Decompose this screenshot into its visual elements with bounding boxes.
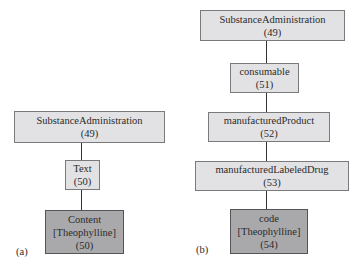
node-label: code (231, 212, 307, 225)
node-b-consumable: consumable (51) (230, 63, 299, 93)
node-b-code: code [Theophylline] (54) (230, 209, 308, 254)
node-label: SubstanceAdministration (201, 13, 344, 26)
node-label: Text (66, 162, 99, 175)
node-label: consumable (231, 65, 298, 78)
node-b-substance-administration: SubstanceAdministration (49) (200, 10, 345, 41)
panel-label-a: (a) (16, 246, 28, 257)
node-label: Content (46, 213, 123, 226)
edge-a-1 (81, 143, 82, 160)
node-b-manufactured-product: manufacturedProduct (52) (208, 112, 330, 142)
node-a-substance-administration: SubstanceAdministration (49) (14, 111, 165, 143)
node-a-text: Text (50) (65, 160, 100, 190)
node-label: SubstanceAdministration (15, 114, 164, 127)
panel-label-b: (b) (196, 244, 208, 255)
node-a-content: Content [Theophylline] (50) (45, 210, 124, 254)
node-value: [Theophylline] (46, 226, 123, 239)
node-id: (50) (46, 239, 123, 252)
node-label: manufacturedProduct (209, 114, 329, 127)
edge-a-2 (81, 190, 82, 210)
edge-b-2 (266, 93, 267, 112)
node-id: (53) (196, 176, 348, 189)
node-id: (50) (66, 175, 99, 188)
node-id: (52) (209, 127, 329, 140)
node-b-manufactured-labeled-drug: manufacturedLabeledDrug (53) (195, 161, 349, 191)
edge-b-3 (266, 142, 267, 161)
node-value: [Theophylline] (231, 225, 307, 238)
node-id: (49) (15, 127, 164, 140)
node-label: manufacturedLabeledDrug (196, 163, 348, 176)
node-id: (49) (201, 26, 344, 39)
node-id: (54) (231, 238, 307, 251)
edge-b-1 (266, 41, 267, 63)
edge-b-4 (266, 191, 267, 209)
node-id: (51) (231, 78, 298, 91)
